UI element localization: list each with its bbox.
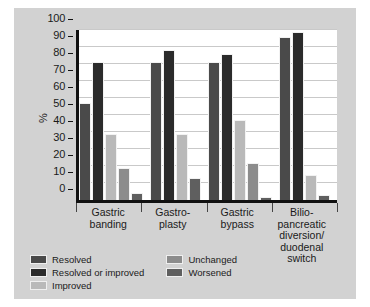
legend-item[interactable]: Resolved [30,254,152,265]
y-axis-tick-label: 40 [53,114,79,126]
chart-figure: % 0102030405060708090100 GastricbandingG… [14,8,356,299]
bar [189,178,201,200]
bar-group [208,30,273,200]
bar-groups [79,30,337,200]
bar [79,103,91,200]
legend-label: Resolved [52,254,92,265]
y-axis-label: % [37,113,49,123]
legend-item[interactable]: Resolved or improved [30,267,152,278]
bar [234,120,246,200]
chart-legend: ResolvedUnchangedResolved or improvedWor… [30,254,245,291]
legend-swatch [30,281,47,290]
y-axis-tick-label: 50 [53,97,79,109]
bar [150,62,162,200]
y-axis-tick-label: 0 [59,182,79,194]
bar [131,193,143,200]
plot-area: 0102030405060708090100 [76,30,337,203]
bar [221,54,233,200]
bar [105,134,117,200]
y-axis-tick-label: 60 [53,80,79,92]
legend-label: Worsened [188,267,231,278]
bar [163,50,175,200]
legend-swatch [30,255,47,264]
x-axis-tick [337,203,338,212]
y-axis-tick-label: 70 [53,63,79,75]
bar [279,37,291,200]
bar [292,32,304,200]
bar [318,195,330,200]
bar-group [144,30,209,200]
legend-label: Resolved or improved [52,267,144,278]
legend-swatch [166,268,183,277]
legend-swatch [30,268,47,277]
legend-swatch [166,255,183,264]
bar-group [79,30,144,200]
y-axis-tick-label: 30 [53,131,79,143]
y-axis-tick-label: 100 [48,12,79,24]
legend-item[interactable]: Unchanged [166,254,245,265]
y-axis-tick-label: 10 [53,165,79,177]
x-axis-category-label: Bilio-pancreaticdiversion/duodenalswitch [270,207,335,265]
bar [118,168,130,200]
y-axis-tick-label: 80 [53,46,79,58]
legend-item[interactable]: Worsened [166,267,245,278]
bar [176,134,188,200]
bar [247,163,259,200]
bar [260,197,272,200]
legend-label: Improved [52,280,92,291]
legend-label: Unchanged [188,254,237,265]
bar [92,62,104,200]
legend-item[interactable]: Improved [30,280,152,291]
y-axis-tick-label: 20 [53,148,79,160]
bar [305,175,317,201]
bar [208,62,220,200]
y-axis-tick-label: 90 [53,29,79,41]
bar-group [273,30,338,200]
